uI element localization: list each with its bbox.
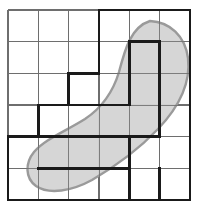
figure-canvas [0, 0, 200, 207]
grid-region-figure [0, 0, 200, 207]
